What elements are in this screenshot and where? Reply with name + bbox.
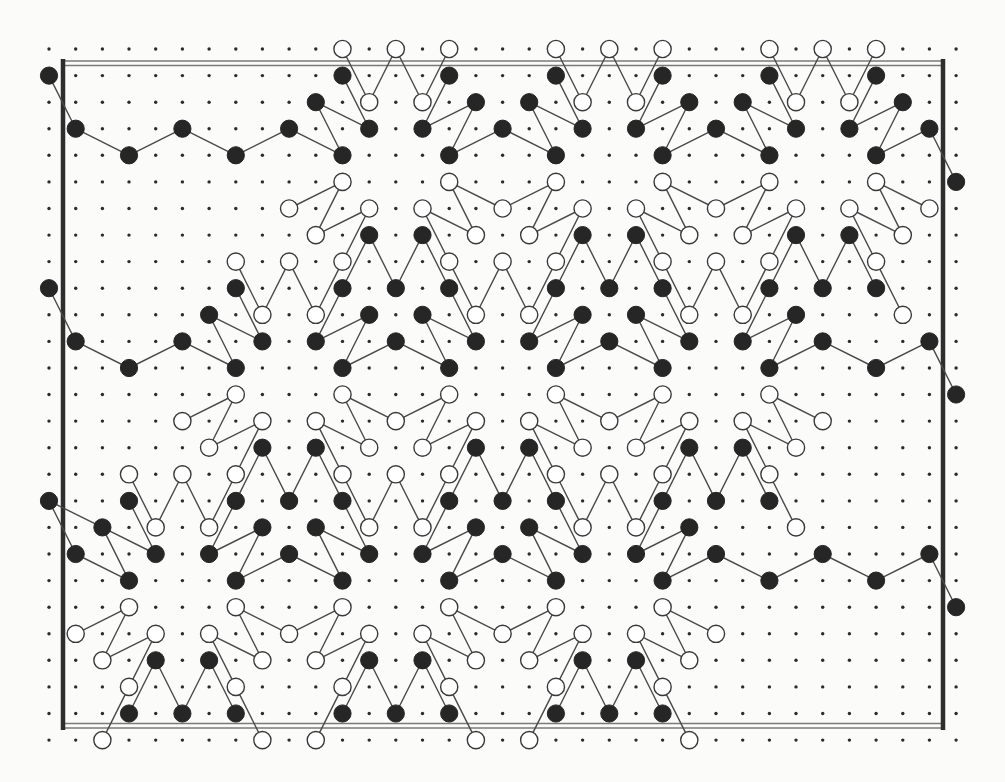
- black-node: [654, 572, 671, 589]
- grid-dot: [261, 154, 264, 157]
- grid-dot: [554, 738, 557, 741]
- grid-dot: [394, 738, 397, 741]
- grid-dot: [287, 446, 290, 449]
- white-node: [467, 732, 484, 749]
- grid-dot: [848, 659, 851, 662]
- grid-dot: [474, 499, 477, 502]
- grid-dot: [928, 526, 931, 529]
- grid-dot: [154, 127, 157, 130]
- grid-dot: [928, 712, 931, 715]
- black-node: [120, 359, 137, 376]
- grid-dot: [848, 738, 851, 741]
- grid-dot: [368, 74, 371, 77]
- grid-dot: [848, 366, 851, 369]
- grid-dot: [554, 127, 557, 130]
- grid-dot: [101, 473, 104, 476]
- grid-dot: [341, 446, 344, 449]
- grid-dot: [528, 393, 531, 396]
- grid-dot: [901, 659, 904, 662]
- black-node: [547, 705, 564, 722]
- grid-dot: [501, 419, 504, 422]
- grid-dot: [528, 552, 531, 555]
- black-node: [387, 333, 404, 350]
- grid-dot: [768, 340, 771, 343]
- grid-dot: [581, 154, 584, 157]
- black-node: [40, 280, 57, 297]
- black-node: [441, 492, 458, 509]
- grid-dot: [528, 287, 531, 290]
- grid-dot: [181, 74, 184, 77]
- black-node: [627, 120, 644, 137]
- grid-dot: [47, 233, 50, 236]
- white-node: [894, 227, 911, 244]
- grid-dot: [554, 340, 557, 343]
- grid-dot: [101, 74, 104, 77]
- grid-dot: [448, 419, 451, 422]
- black-node: [361, 545, 378, 562]
- black-node: [654, 492, 671, 509]
- grid-dot: [901, 632, 904, 635]
- grid-dot: [901, 499, 904, 502]
- grid-dot: [688, 552, 691, 555]
- grid-dot: [421, 685, 424, 688]
- grid-dot: [661, 632, 664, 635]
- white-node: [361, 200, 378, 217]
- grid-dot: [528, 499, 531, 502]
- grid-dot: [101, 154, 104, 157]
- grid-dot: [768, 526, 771, 529]
- grid-dot: [394, 101, 397, 104]
- grid-dot: [394, 74, 397, 77]
- grid-dot: [207, 499, 210, 502]
- grid-dot: [714, 419, 717, 422]
- grid-dot: [928, 446, 931, 449]
- grid-dot: [368, 47, 371, 50]
- grid-dot: [501, 74, 504, 77]
- grid-dot: [608, 366, 611, 369]
- white-node: [868, 173, 885, 190]
- grid-dot: [821, 154, 824, 157]
- grid-dot: [741, 154, 744, 157]
- grid-dot: [47, 632, 50, 635]
- grid-dot: [741, 473, 744, 476]
- grid-dot: [421, 606, 424, 609]
- grid-dot: [421, 473, 424, 476]
- grid-dot: [74, 473, 77, 476]
- grid-dot: [181, 287, 184, 290]
- grid-dot: [101, 579, 104, 582]
- grid-dot: [314, 606, 317, 609]
- grid-dot: [314, 207, 317, 210]
- grid-dot: [181, 552, 184, 555]
- grid-dot: [608, 154, 611, 157]
- white-node: [787, 519, 804, 536]
- grid-dot: [181, 579, 184, 582]
- grid-dot: [421, 260, 424, 263]
- grid-dot: [101, 606, 104, 609]
- black-node: [227, 492, 244, 509]
- grid-dot: [688, 632, 691, 635]
- grid-dot: [207, 287, 210, 290]
- grid-dot: [794, 366, 797, 369]
- grid-dot: [474, 393, 477, 396]
- black-node: [361, 306, 378, 323]
- grid-dot: [181, 526, 184, 529]
- black-node: [601, 705, 618, 722]
- white-node: [334, 678, 351, 695]
- grid-dot: [954, 366, 957, 369]
- grid-dot: [608, 659, 611, 662]
- grid-dot: [928, 74, 931, 77]
- grid-dot: [874, 233, 877, 236]
- grid-dot: [954, 313, 957, 316]
- white-node: [441, 599, 458, 616]
- white-node: [521, 306, 538, 323]
- grid-dot: [154, 712, 157, 715]
- grid-dot: [634, 419, 637, 422]
- grid-dot: [688, 207, 691, 210]
- grid-dot: [101, 685, 104, 688]
- black-node: [307, 439, 324, 456]
- grid-dot: [928, 685, 931, 688]
- white-node: [521, 227, 538, 244]
- black-node: [120, 492, 137, 509]
- grid-dot: [181, 313, 184, 316]
- grid-dot: [368, 685, 371, 688]
- grid-dot: [928, 47, 931, 50]
